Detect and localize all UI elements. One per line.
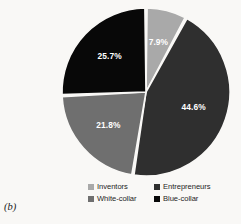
legend-label-blue-collar: Blue-collar [163, 195, 198, 203]
figure-panel: 7.9%44.6%21.8%25.7% Inventors Entreprene… [0, 0, 241, 224]
pie-slice-label: 21.8% [96, 120, 121, 130]
legend-swatch-entrepreneurs [154, 184, 160, 190]
pie-chart: 7.9%44.6%21.8%25.7% [59, 5, 233, 179]
legend-label-entrepreneurs: Entrepreneurs [163, 183, 210, 191]
legend-item-white-collar[interactable]: White-collar [88, 193, 154, 204]
panel-caption: (b) [4, 201, 16, 212]
legend-label-white-collar: White-collar [97, 195, 137, 203]
pie-chart-svg: 7.9%44.6%21.8%25.7% [59, 5, 233, 179]
pie-slice[interactable] [62, 92, 146, 175]
chart-legend: Inventors Entrepreneurs White-collar Blu… [88, 181, 238, 204]
legend-swatch-white-collar [88, 196, 94, 202]
pie-slice-label: 7.9% [149, 37, 169, 47]
legend-item-blue-collar[interactable]: Blue-collar [154, 193, 238, 204]
pie-slice-label: 25.7% [97, 51, 122, 61]
legend-item-entrepreneurs[interactable]: Entrepreneurs [154, 181, 238, 192]
legend-swatch-inventors [88, 184, 94, 190]
legend-swatch-blue-collar [154, 196, 160, 202]
legend-label-inventors: Inventors [97, 183, 128, 191]
legend-item-inventors[interactable]: Inventors [88, 181, 154, 192]
pie-slices [62, 8, 230, 176]
pie-slice-label: 44.6% [182, 102, 207, 112]
